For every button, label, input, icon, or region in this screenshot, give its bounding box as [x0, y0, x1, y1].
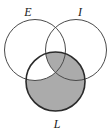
venn-diagram-canvas: E I L — [0, 0, 112, 133]
venn-diagram-figure: E I L — [0, 0, 112, 133]
set-label-e: E — [23, 5, 32, 19]
set-label-l: L — [53, 117, 61, 131]
